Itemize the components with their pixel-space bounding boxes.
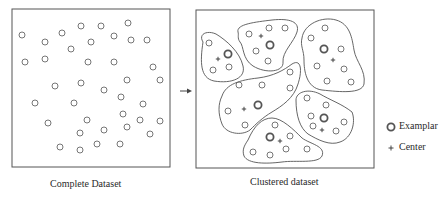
data-point [206, 40, 212, 46]
data-point [341, 119, 347, 125]
data-point [287, 69, 293, 75]
clusters [201, 19, 364, 163]
data-point [287, 85, 293, 91]
data-point [98, 23, 104, 29]
data-point [282, 25, 288, 31]
data-point [310, 123, 316, 129]
center-icon [389, 146, 394, 151]
data-point [101, 87, 107, 93]
data-point [124, 77, 130, 83]
data-point [236, 82, 242, 88]
data-point [32, 100, 38, 106]
center-marker [331, 58, 335, 62]
data-point [59, 30, 65, 36]
data-point [57, 144, 63, 150]
data-point [42, 56, 48, 62]
data-point [77, 147, 83, 153]
cluster-a [201, 32, 243, 81]
data-point [101, 127, 107, 133]
center-marker [242, 107, 246, 111]
data-point [118, 94, 124, 100]
data-point [68, 46, 74, 52]
data-point [124, 124, 130, 130]
data-point [324, 78, 330, 84]
cluster-boundary [238, 20, 298, 71]
arrow-icon [180, 89, 192, 94]
data-point [287, 133, 293, 139]
data-point [120, 111, 126, 117]
data-point [150, 64, 156, 70]
clustered-dataset-frame [196, 10, 374, 168]
cluster-b [238, 20, 298, 71]
data-point [283, 146, 289, 152]
data-point [322, 25, 328, 31]
data-point [42, 39, 48, 45]
center-marker [216, 57, 220, 61]
data-point [137, 117, 143, 123]
legend [387, 123, 394, 150]
data-point [308, 35, 314, 41]
data-point [266, 25, 272, 31]
data-point [304, 95, 310, 101]
exemplar-point [266, 41, 273, 48]
data-point [265, 58, 271, 64]
data-point [225, 108, 231, 114]
data-point [45, 120, 51, 126]
data-point [71, 100, 77, 106]
data-point [52, 83, 58, 89]
data-point [19, 32, 25, 38]
exemplar-point [320, 45, 327, 52]
data-point [140, 101, 146, 107]
center-marker [259, 34, 263, 38]
data-point [226, 64, 232, 70]
data-point [210, 67, 216, 73]
exemplar-point [266, 133, 273, 140]
cluster-boundary [301, 19, 364, 92]
data-point [22, 59, 28, 65]
data-point [314, 63, 320, 69]
data-point [78, 80, 84, 86]
data-point [94, 141, 100, 147]
data-point [242, 122, 248, 128]
cluster-c [301, 19, 364, 92]
data-point [111, 33, 117, 39]
data-point [333, 128, 339, 134]
data-point [125, 20, 131, 26]
complete-dataset-points [19, 20, 163, 153]
data-point [117, 141, 123, 147]
exemplar-point [254, 101, 261, 108]
data-point [78, 23, 84, 29]
data-point [259, 82, 265, 88]
data-point [250, 149, 256, 155]
data-point [341, 66, 347, 72]
data-point [84, 117, 90, 123]
complete-dataset-label: Complete Dataset [50, 178, 121, 189]
data-point [85, 59, 91, 65]
data-point [157, 77, 163, 83]
data-point [272, 122, 278, 128]
clustered-dataset-label: Clustered dataset [250, 176, 319, 187]
clustering-diagram [0, 0, 446, 204]
exemplar-point [320, 114, 327, 121]
data-point [348, 79, 354, 85]
legend-exemplar-label: Examplar [399, 120, 438, 131]
complete-dataset-frame [12, 9, 170, 167]
data-point [111, 59, 117, 65]
data-point [253, 48, 259, 54]
data-point [267, 152, 273, 158]
data-point [304, 146, 310, 152]
center-marker [278, 139, 282, 143]
exemplar-point [224, 50, 231, 57]
data-point [77, 130, 83, 136]
data-point [323, 102, 329, 108]
data-point [88, 39, 94, 45]
cluster-e [296, 91, 354, 143]
data-point [144, 37, 150, 43]
exemplar-icon [387, 123, 394, 130]
data-point [128, 37, 134, 43]
data-point [147, 131, 153, 137]
data-point [338, 46, 344, 52]
data-point [246, 31, 252, 37]
legend-center-label: Center [399, 141, 426, 152]
data-point [157, 118, 163, 124]
